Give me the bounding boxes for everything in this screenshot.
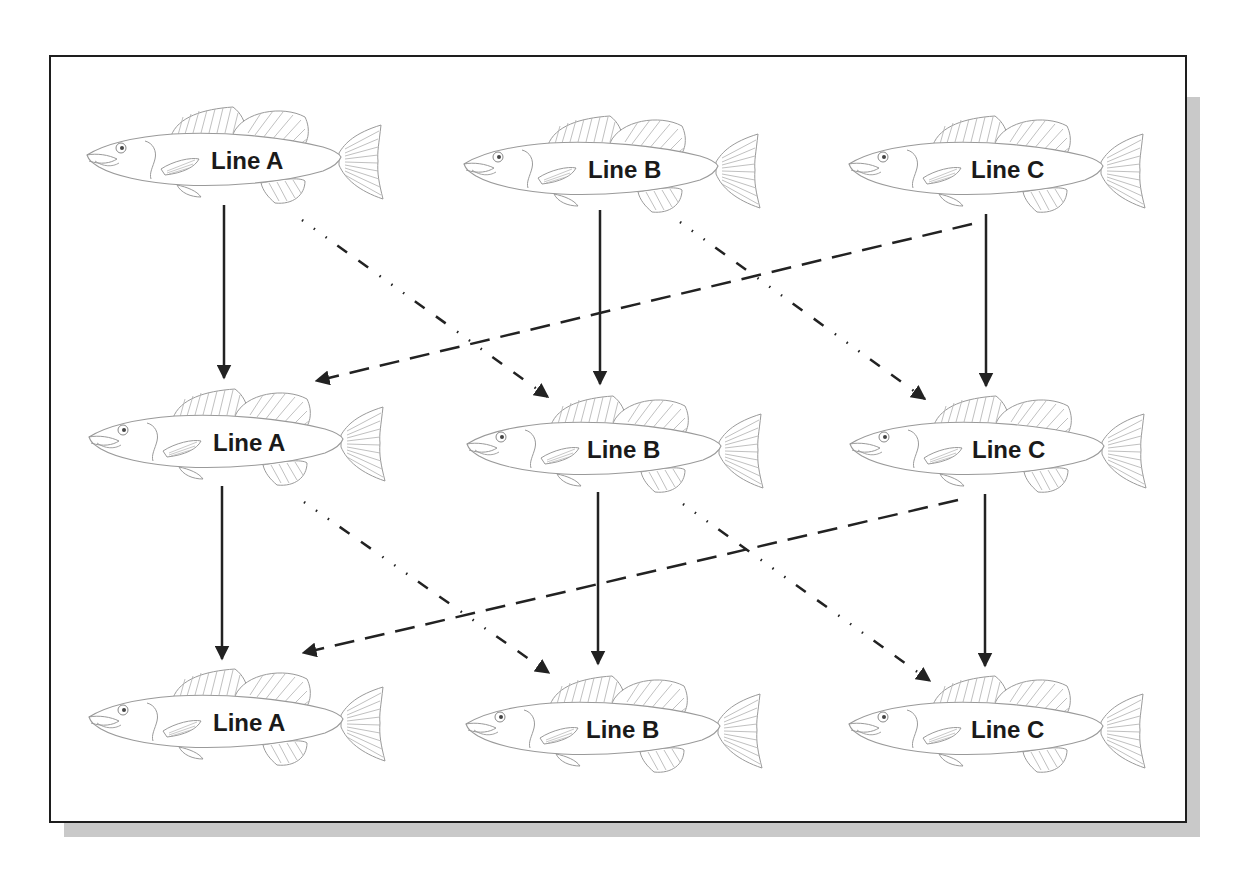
fish-line-a-gen2: Line A — [89, 389, 385, 485]
fish-label: Line A — [213, 429, 285, 456]
arrow-b2-to-c3-dashdot — [683, 504, 930, 681]
arrow-a2-to-b3-dashdot — [304, 502, 549, 673]
fish-line-b-gen1: Line B — [464, 116, 760, 212]
fish-label: Line B — [586, 716, 659, 743]
fish-label: Line A — [211, 147, 283, 174]
fish-line-c-gen1: Line C — [849, 116, 1145, 212]
arrow-b1-to-c2-dashdot — [680, 222, 925, 399]
fish-label: Line B — [588, 156, 661, 183]
fish-label: Line C — [972, 436, 1045, 463]
fish-label: Line C — [971, 156, 1044, 183]
fish-line-b-gen3: Line B — [466, 676, 762, 772]
arrow-c2-to-a3-dashed — [303, 500, 958, 653]
breeding-diagram: Line A Line B Line C Line A Line B Line … — [0, 0, 1247, 886]
arrow-c1-to-a2-dashed — [316, 224, 972, 381]
arrow-a1-to-b2-dashdot — [302, 220, 548, 397]
fish-line-b-gen2: Line B — [467, 396, 763, 492]
fish-line-a-gen3: Line A — [89, 669, 385, 765]
fish-line-a-gen1: Line A — [87, 107, 383, 203]
fish-label: Line A — [213, 709, 285, 736]
fish-line-c-gen3: Line C — [849, 676, 1145, 772]
fish-label: Line C — [971, 716, 1044, 743]
fish-label: Line B — [587, 436, 660, 463]
fish-line-c-gen2: Line C — [850, 396, 1146, 492]
